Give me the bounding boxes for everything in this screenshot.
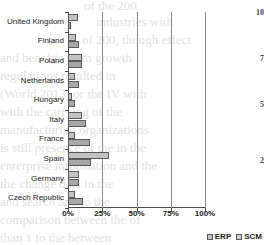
y-axis-tick bbox=[65, 130, 68, 131]
bar-erp-france bbox=[68, 132, 75, 139]
page-margin-number: 10 bbox=[256, 8, 264, 17]
bar-scm-poland bbox=[68, 61, 82, 68]
gridline bbox=[102, 12, 103, 208]
bar-erp-hungary bbox=[68, 93, 72, 100]
y-axis-tick bbox=[65, 51, 68, 52]
bar-scm-finland bbox=[68, 41, 79, 48]
x-axis-tick-label: 50% bbox=[128, 209, 144, 218]
gridline bbox=[137, 12, 138, 208]
y-axis-category-label: Spain bbox=[44, 154, 64, 163]
bar-scm-united-kingdom bbox=[68, 22, 71, 29]
legend-label: ERP bbox=[215, 232, 231, 241]
bar-erp-netherlands bbox=[68, 73, 75, 80]
bar-scm-hungary bbox=[68, 100, 75, 107]
y-axis-category-label: Germany bbox=[31, 174, 64, 183]
gridline bbox=[205, 12, 206, 208]
bar-scm-spain bbox=[68, 159, 91, 166]
bar-erp-poland bbox=[68, 54, 82, 61]
y-axis-category-label: Netherlands bbox=[21, 76, 64, 85]
y-axis-tick bbox=[65, 32, 68, 33]
bar-scm-germany bbox=[68, 179, 79, 186]
y-axis-category-label: France bbox=[39, 134, 64, 143]
y-axis-tick bbox=[65, 188, 68, 189]
y-axis-tick bbox=[65, 169, 68, 170]
y-axis-tick bbox=[65, 71, 68, 72]
bar-erp-spain bbox=[68, 152, 109, 159]
page-margin-number: 5 bbox=[260, 100, 264, 109]
y-axis-category-label: Finland bbox=[38, 36, 64, 45]
y-axis-category-label: Czech Republic bbox=[8, 193, 64, 202]
y-axis-category-labels: United KingdomFinlandPolandNetherlandsHu… bbox=[0, 12, 64, 208]
y-axis-category-label: Italy bbox=[49, 115, 64, 124]
y-axis-category-label: Hungary bbox=[34, 95, 64, 104]
gridline bbox=[171, 12, 172, 208]
legend-swatch-icon bbox=[236, 234, 242, 240]
bar-erp-finland bbox=[68, 34, 76, 41]
legend-swatch-icon bbox=[207, 234, 213, 240]
bar-scm-netherlands bbox=[68, 81, 79, 88]
legend-label: SCM bbox=[244, 232, 262, 241]
x-axis-tick-label: 25% bbox=[94, 209, 110, 218]
background-bleed-text: than 1 to the between bbox=[0, 230, 111, 245]
y-axis-tick bbox=[65, 149, 68, 150]
legend-item-erp: ERP bbox=[207, 232, 231, 241]
y-axis-tick bbox=[65, 90, 68, 91]
bar-erp-czech-republic bbox=[68, 191, 75, 198]
bar-scm-france bbox=[68, 139, 90, 146]
x-axis-tick-label: 100% bbox=[195, 209, 215, 218]
y-axis-tick bbox=[65, 110, 68, 111]
y-axis-tick bbox=[65, 12, 68, 13]
bar-erp-germany bbox=[68, 171, 79, 178]
bar-scm-italy bbox=[68, 120, 86, 127]
y-axis-category-label: United Kingdom bbox=[7, 17, 64, 26]
x-axis-tick-label: 75% bbox=[163, 209, 179, 218]
x-axis-tick-label: 0% bbox=[62, 209, 74, 218]
y-axis-category-label: Poland bbox=[39, 56, 64, 65]
bar-chart: of the 200 industries with of 200, thoug… bbox=[0, 0, 266, 245]
chart-legend: ERP SCM bbox=[207, 232, 262, 241]
bar-scm-czech-republic bbox=[68, 198, 83, 205]
legend-item-scm: SCM bbox=[236, 232, 262, 241]
page-margin-number: 7 bbox=[260, 54, 264, 63]
plot-area bbox=[68, 12, 205, 208]
page-margin-number: 2 bbox=[260, 156, 264, 165]
bar-erp-united-kingdom bbox=[68, 14, 78, 21]
bar-erp-italy bbox=[68, 112, 82, 119]
